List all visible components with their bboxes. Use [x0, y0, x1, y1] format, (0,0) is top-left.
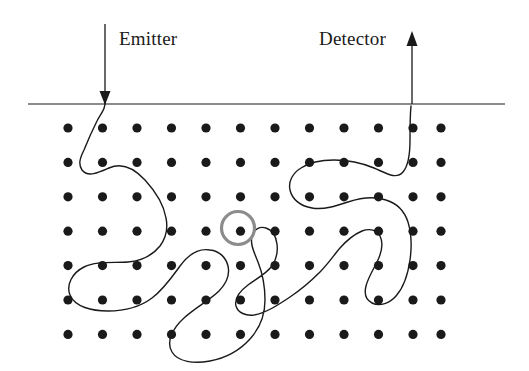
- lattice-atom: [167, 295, 176, 304]
- detector-label: Detector: [319, 28, 386, 50]
- lattice-atom: [305, 330, 314, 339]
- lattice-atom: [167, 261, 176, 270]
- lattice-atom: [374, 123, 383, 132]
- lattice-atom: [236, 330, 245, 339]
- lattice-atom: [436, 261, 445, 270]
- lattice-atom: [270, 192, 279, 201]
- lattice-atom: [408, 261, 417, 270]
- scattering-diagram: Emitter Detector: [0, 0, 529, 371]
- lattice-atom: [436, 227, 445, 236]
- lattice-atom: [374, 295, 383, 304]
- lattice-atom: [339, 192, 348, 201]
- lattice-atom: [374, 192, 383, 201]
- diagram-canvas: [0, 0, 529, 371]
- lattice-atom: [63, 158, 72, 167]
- lattice-atom: [167, 192, 176, 201]
- lattice-atom: [270, 227, 279, 236]
- lattice-atom: [408, 192, 417, 201]
- lattice-atom: [98, 123, 107, 132]
- lattice-atom: [167, 158, 176, 167]
- lattice-atom: [408, 123, 417, 132]
- lattice-atom: [339, 295, 348, 304]
- lattice-atom: [63, 123, 72, 132]
- lattice-atom: [201, 295, 210, 304]
- lattice-atom: [408, 295, 417, 304]
- lattice-atom: [305, 123, 314, 132]
- lattice-atom: [305, 261, 314, 270]
- lattice-atom: [236, 158, 245, 167]
- lattice-atom: [167, 227, 176, 236]
- detector-arrow-head-icon: [407, 31, 418, 46]
- lattice-atom: [270, 123, 279, 132]
- lattice-atom: [63, 330, 72, 339]
- lattice-atom: [236, 227, 245, 236]
- lattice-atom: [236, 295, 245, 304]
- lattice-atom: [374, 158, 383, 167]
- lattice-atom: [305, 158, 314, 167]
- lattice-atom: [236, 123, 245, 132]
- lattice-atom: [305, 295, 314, 304]
- lattice-atom: [270, 158, 279, 167]
- lattice-atom: [436, 330, 445, 339]
- lattice-atom: [98, 227, 107, 236]
- lattice-atom: [201, 227, 210, 236]
- lattice-atom: [436, 192, 445, 201]
- lattice-atom: [167, 123, 176, 132]
- lattice-atom: [63, 295, 72, 304]
- lattice-atom: [236, 261, 245, 270]
- lattice-atom: [201, 261, 210, 270]
- lattice-atom: [436, 158, 445, 167]
- lattice-atom: [98, 330, 107, 339]
- lattice-atom: [339, 330, 348, 339]
- emitter-label: Emitter: [119, 28, 177, 50]
- lattice-atom: [408, 158, 417, 167]
- lattice-atom: [339, 158, 348, 167]
- lattice-atom: [201, 123, 210, 132]
- lattice-atom: [305, 192, 314, 201]
- lattice-atom: [201, 158, 210, 167]
- lattice-atom: [408, 330, 417, 339]
- lattice-atom: [98, 192, 107, 201]
- lattice-atom: [374, 261, 383, 270]
- lattice-atom: [305, 227, 314, 236]
- lattice-atom: [132, 295, 141, 304]
- lattice-atom: [132, 261, 141, 270]
- lattice-atom: [436, 123, 445, 132]
- lattice-atom: [201, 330, 210, 339]
- emitter-arrow: [100, 24, 111, 105]
- lattice-atom: [98, 295, 107, 304]
- lattice-atom: [63, 227, 72, 236]
- lattice-atom: [408, 227, 417, 236]
- lattice-atom: [436, 295, 445, 304]
- lattice-atom: [132, 330, 141, 339]
- lattice-atom: [374, 330, 383, 339]
- lattice-atom: [132, 227, 141, 236]
- lattice-atom: [236, 192, 245, 201]
- lattice-atom: [339, 261, 348, 270]
- lattice-atom: [374, 227, 383, 236]
- lattice-atom: [270, 295, 279, 304]
- lattice-atom: [132, 158, 141, 167]
- lattice-atom: [270, 261, 279, 270]
- lattice-atom: [167, 330, 176, 339]
- lattice-atom: [270, 330, 279, 339]
- lattice-atom: [63, 192, 72, 201]
- lattice-atom: [132, 123, 141, 132]
- lattice-atom: [98, 158, 107, 167]
- lattice-atom: [98, 261, 107, 270]
- lattice-atom: [132, 192, 141, 201]
- lattice-atom: [339, 227, 348, 236]
- lattice-atom: [201, 192, 210, 201]
- lattice-atom: [339, 123, 348, 132]
- lattice-atom: [63, 261, 72, 270]
- detector-arrow: [407, 31, 418, 104]
